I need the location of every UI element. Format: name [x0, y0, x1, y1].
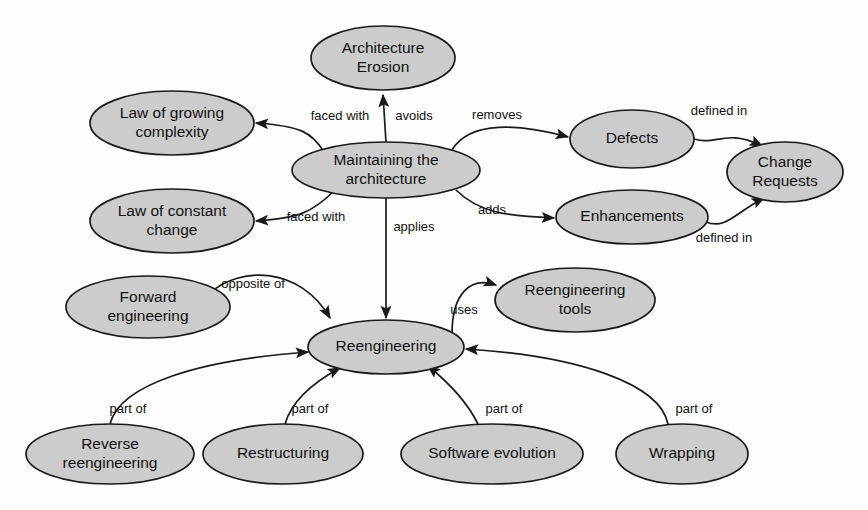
edge-reverse-partof-reengineering [110, 352, 308, 424]
node-change-requests[interactable]: ChangeRequests [727, 142, 843, 202]
node-shape-reengineering-tools[interactable] [495, 268, 655, 332]
node-enhancements[interactable]: Enhancements [556, 190, 708, 244]
node-shape-architecture-erosion[interactable] [311, 26, 455, 90]
edge-label-maintaining-removes-defects: removes [472, 107, 522, 122]
edge-restructuring-partof-reengineering [285, 368, 340, 424]
edge-label-reverse-partof-reengineering: part of [110, 401, 147, 416]
node-shape-enhancements[interactable] [556, 190, 708, 244]
node-shape-forward-engineering[interactable] [66, 276, 230, 338]
node-reverse-reengineering[interactable]: Reversereengineering [26, 424, 194, 484]
node-shape-change-requests[interactable] [727, 142, 843, 202]
edge-label-enhancements-definedin-change-requests: defined in [696, 230, 752, 245]
node-shape-maintaining-architecture[interactable] [292, 142, 480, 198]
edge-label-software-evolution-partof-reengineering: part of [486, 401, 523, 416]
node-shape-reengineering[interactable] [308, 320, 464, 374]
node-reengineering[interactable]: Reengineering [308, 320, 464, 374]
concept-map-canvas: ArchitectureErosionLaw of growingcomplex… [0, 0, 868, 510]
node-software-evolution[interactable]: Software evolution [401, 424, 583, 484]
node-shape-law-constant-change[interactable] [90, 189, 254, 253]
node-forward-engineering[interactable]: Forwardengineering [66, 276, 230, 338]
node-shape-defects[interactable] [570, 110, 694, 168]
edge-maintaining-facedwith-growing [256, 123, 324, 152]
node-wrapping[interactable]: Wrapping [616, 424, 748, 484]
concept-map-svg: ArchitectureErosionLaw of growingcomplex… [0, 0, 868, 510]
edge-label-maintaining-applies-reengineering: applies [393, 219, 435, 234]
node-law-growing-complexity[interactable]: Law of growingcomplexity [90, 91, 254, 155]
edge-label-maintaining-facedwith-growing: faced with [311, 108, 370, 123]
edge-label-maintaining-avoids-erosion: avoids [395, 108, 433, 123]
node-maintaining-architecture[interactable]: Maintaining thearchitecture [292, 142, 480, 198]
node-architecture-erosion[interactable]: ArchitectureErosion [311, 26, 455, 90]
edge-defects-definedin-change-requests [694, 138, 762, 146]
node-shape-software-evolution[interactable] [401, 424, 583, 484]
edge-wrapping-partof-reengineering [466, 349, 668, 424]
edge-label-defects-definedin-change-requests: defined in [691, 103, 747, 118]
node-restructuring[interactable]: Restructuring [203, 424, 363, 484]
edge-reengineering-uses-tools [452, 283, 496, 334]
edge-maintaining-adds-enhancements [456, 190, 554, 218]
edge-software-evolution-partof-reengineering [428, 366, 478, 424]
edge-maintaining-facedwith-constant [256, 192, 333, 221]
node-shape-restructuring[interactable] [203, 424, 363, 484]
node-law-constant-change[interactable]: Law of constantchange [90, 189, 254, 253]
node-shape-law-growing-complexity[interactable] [90, 91, 254, 155]
nodes-layer: ArchitectureErosionLaw of growingcomplex… [26, 26, 843, 484]
edge-label-maintaining-facedwith-constant: faced with [287, 209, 346, 224]
node-reengineering-tools[interactable]: Reengineeringtools [495, 268, 655, 332]
edge-label-wrapping-partof-reengineering: part of [676, 401, 713, 416]
edge-label-forward-oppositeof-reengineering: opposite of [221, 276, 285, 291]
edge-maintaining-avoids-erosion [383, 95, 386, 142]
edge-maintaining-removes-defects [452, 127, 568, 150]
node-defects[interactable]: Defects [570, 110, 694, 168]
node-shape-wrapping[interactable] [616, 424, 748, 484]
edge-label-restructuring-partof-reengineering: part of [292, 401, 329, 416]
edge-enhancements-definedin-change-requests [706, 198, 764, 224]
node-shape-reverse-reengineering[interactable] [26, 424, 194, 484]
edge-label-maintaining-adds-enhancements: adds [478, 202, 507, 217]
